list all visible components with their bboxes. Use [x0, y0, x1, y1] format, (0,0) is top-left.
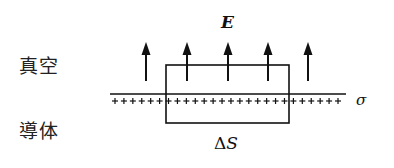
- plus-charge-icon: [219, 98, 225, 104]
- surface-charges: [112, 98, 341, 104]
- plus-charge-icon: [264, 98, 270, 104]
- plus-charge-icon: [299, 98, 305, 104]
- delta-symbol: Δ: [214, 133, 226, 153]
- plus-charge-icon: [139, 98, 145, 104]
- plus-charge-icon: [201, 98, 207, 104]
- plus-charge-icon: [246, 98, 252, 104]
- plus-charge-icon: [228, 98, 234, 104]
- plus-charge-icon: [326, 98, 332, 104]
- plus-charge-icon: [157, 98, 163, 104]
- plus-charge-icon: [130, 98, 136, 104]
- plus-charge-icon: [317, 98, 323, 104]
- plus-charge-icon: [290, 98, 296, 104]
- field-arrow-up-icon: [264, 42, 273, 81]
- plus-charge-icon: [183, 98, 189, 104]
- plus-charge-icon: [335, 98, 341, 104]
- field-arrow-up-icon: [183, 42, 192, 81]
- plus-charge-icon: [174, 98, 180, 104]
- plus-charge-icon: [192, 98, 198, 104]
- plus-charge-icon: [255, 98, 261, 104]
- conductor-label: 導体: [19, 122, 59, 141]
- area-symbol: S: [226, 133, 238, 153]
- plus-charge-icon: [210, 98, 216, 104]
- field-arrow-up-icon: [224, 42, 233, 81]
- field-arrow-up-icon: [304, 42, 313, 81]
- diagram-svg: [0, 0, 394, 168]
- electric-field-label: E: [221, 14, 234, 31]
- plus-charge-icon: [148, 98, 154, 104]
- plus-charge-icon: [237, 98, 243, 104]
- plus-charge-icon: [281, 98, 287, 104]
- electric-field-arrows: [142, 42, 313, 81]
- plus-charge-icon: [308, 98, 314, 104]
- plus-charge-icon: [273, 98, 279, 104]
- surface-charge-density-label: σ: [356, 93, 366, 108]
- vacuum-label: 真空: [19, 57, 59, 76]
- area-element-label: ΔS: [214, 135, 238, 152]
- plus-charge-icon: [112, 98, 118, 104]
- plus-charge-icon: [121, 98, 127, 104]
- field-arrow-up-icon: [142, 42, 151, 81]
